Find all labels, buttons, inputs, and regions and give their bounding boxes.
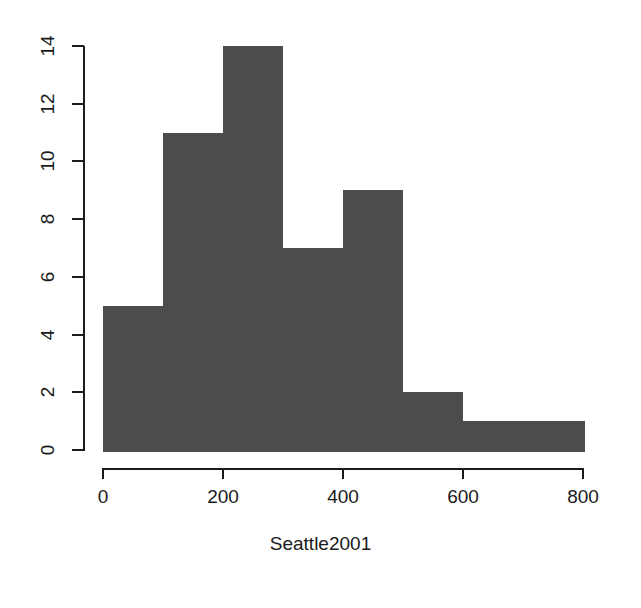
y-axis-tick	[72, 218, 84, 220]
x-axis-tick	[582, 468, 584, 479]
y-axis-tick-label-text: 0	[38, 445, 57, 456]
y-axis-line	[83, 46, 85, 451]
y-axis-tick-label-text: 4	[38, 329, 57, 340]
histogram-bar	[463, 421, 525, 452]
x-axis-title: Seattle2001	[0, 534, 641, 553]
y-axis-tick	[72, 45, 84, 47]
histogram-bar	[223, 46, 285, 452]
histogram-bar	[283, 248, 345, 452]
x-axis-tick	[462, 468, 464, 479]
x-axis-tick-label: 400	[327, 487, 359, 506]
y-axis-tick	[72, 334, 84, 336]
y-axis-tick	[72, 276, 84, 278]
y-axis-tick-label-text: 2	[38, 387, 57, 398]
x-axis-tick	[342, 468, 344, 479]
y-axis-tick	[72, 160, 84, 162]
y-axis-tick-label-text: 8	[38, 214, 57, 225]
x-axis-tick-label: 800	[567, 487, 599, 506]
histogram-bar	[403, 392, 465, 452]
histogram-bar	[163, 133, 225, 452]
x-axis-tick-label: 600	[447, 487, 479, 506]
y-axis-tick	[72, 449, 84, 451]
histogram-bar	[103, 306, 165, 452]
bars-layer	[0, 0, 641, 608]
histogram-bar	[343, 190, 405, 452]
y-axis-tick-label-text: 14	[38, 35, 57, 56]
y-axis-tick	[72, 103, 84, 105]
y-axis-tick-label-text: 10	[38, 151, 57, 172]
x-axis-tick	[102, 468, 104, 479]
x-axis-tick-label: 0	[98, 487, 109, 506]
histogram-plot: 02468101214 0200400600800 Seattle2001	[0, 0, 641, 608]
x-axis-tick-label: 200	[207, 487, 239, 506]
x-axis-tick	[222, 468, 224, 479]
y-axis-tick	[72, 391, 84, 393]
y-axis-tick-label-text: 12	[38, 93, 57, 114]
histogram-bar	[523, 421, 585, 452]
y-axis-tick-label-text: 6	[38, 272, 57, 283]
